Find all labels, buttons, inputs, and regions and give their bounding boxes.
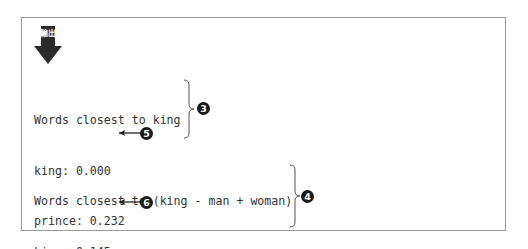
result-block-analogy: Words closest to (king - man + woman) ki… <box>34 160 292 249</box>
arrow-left-icon <box>118 128 142 138</box>
callout-number-4: 4 <box>301 190 314 203</box>
callout-number-6: 6 <box>140 196 153 209</box>
brace-icon <box>183 79 197 139</box>
output-arrow-icon: 輸出 <box>34 26 62 64</box>
block-header: Words closest to (king - man + woman) <box>34 193 292 210</box>
block-header: Words closest to king <box>34 112 181 129</box>
callout-number-3: 3 <box>197 102 210 115</box>
result-line: king: 0.145 <box>34 244 292 249</box>
arrow-left-icon <box>118 197 142 207</box>
output-label: 輸出 <box>34 29 62 38</box>
callout-number-5: 5 <box>140 127 153 140</box>
